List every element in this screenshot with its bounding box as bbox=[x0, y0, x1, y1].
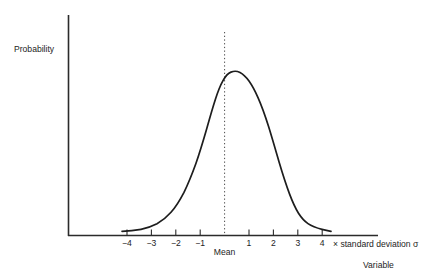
x-tick-label-neg1: −1 bbox=[195, 239, 205, 248]
plot-canvas bbox=[0, 0, 435, 277]
x-axis-units-label: × standard deviation σ bbox=[333, 240, 418, 249]
normal-curve bbox=[122, 71, 331, 231]
x-tick-label-2: 2 bbox=[271, 239, 276, 248]
y-axis-label: Probability bbox=[14, 45, 54, 54]
normal-distribution-figure: Probability −4 −3 −2 −1 1 2 3 4 Mean × s… bbox=[0, 0, 435, 277]
x-tick-label-neg3: −3 bbox=[146, 239, 156, 248]
x-tick-label-4: 4 bbox=[320, 239, 325, 248]
x-axis-name-label: Variable bbox=[363, 261, 394, 270]
x-tick-label-neg4: −4 bbox=[122, 239, 132, 248]
x-tick-label-1: 1 bbox=[247, 239, 252, 248]
x-tick-label-3: 3 bbox=[295, 239, 300, 248]
mean-annotation-label: Mean bbox=[214, 248, 236, 257]
x-tick-label-neg2: −2 bbox=[171, 239, 181, 248]
